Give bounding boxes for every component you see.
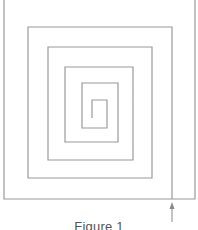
figure-caption: Figure 1 bbox=[0, 219, 198, 230]
spiral-path bbox=[28, 27, 172, 199]
square-spiral-diagram bbox=[0, 0, 198, 230]
